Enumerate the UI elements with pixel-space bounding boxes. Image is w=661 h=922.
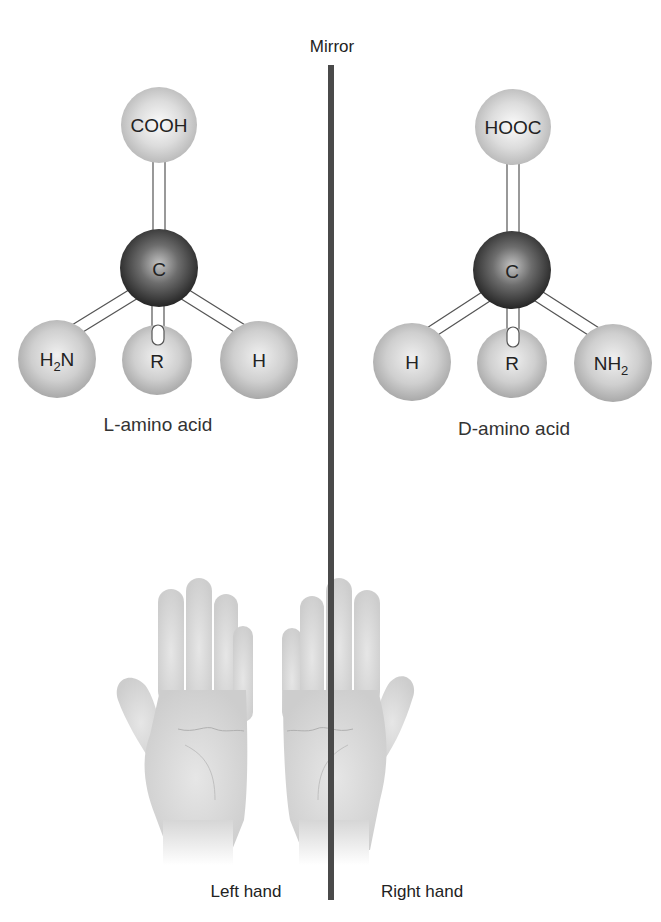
r-group-label: R [150, 351, 164, 372]
caption-prefix: L [104, 414, 115, 435]
carbon-label: C [505, 261, 519, 282]
bond-right [532, 292, 596, 333]
hydrogen-label: H [252, 350, 266, 371]
bond-top [153, 160, 165, 240]
carbon-label: C [152, 259, 166, 280]
bond-left [75, 290, 140, 330]
bond-right [178, 290, 242, 330]
d-amino-acid-caption: D-amino acid [414, 418, 614, 440]
l-amino-acid-model: COOH C H2N R H [18, 87, 298, 399]
bond-top [507, 162, 519, 242]
right-hand-label: Right hand [352, 882, 492, 902]
right-hand-illustration [282, 578, 414, 865]
cooh-label: COOH [131, 115, 188, 136]
caption-suffix: -amino acid [472, 418, 570, 439]
caption-suffix: -amino acid [114, 414, 212, 435]
mirror-line [328, 65, 334, 900]
l-amino-acid-caption: L-amino acid [58, 414, 258, 436]
hydrogen-label: H [405, 352, 419, 373]
mirror-label: Mirror [292, 37, 372, 57]
r-group-label: R [505, 353, 519, 374]
hooc-label: HOOC [485, 117, 542, 138]
bond-left [430, 292, 493, 333]
left-hand-illustration [117, 578, 253, 865]
caption-prefix: D [458, 418, 472, 439]
d-amino-acid-model: HOOC C H R NH2 [373, 89, 652, 402]
left-hand-label: Left hand [176, 882, 316, 902]
